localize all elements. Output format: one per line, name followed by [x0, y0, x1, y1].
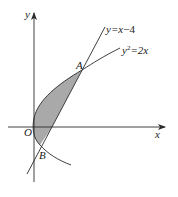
line-eq-suffix: −4	[123, 23, 135, 35]
shaded-region	[33, 70, 82, 145]
line-eq-prefix: y=x	[105, 23, 123, 35]
parabola-eq-rest: =2x	[130, 44, 148, 56]
line-equation-label: y=x−4	[105, 23, 135, 35]
parabola-equation-label: y2=2x	[121, 44, 148, 56]
x-axis-label: x	[154, 128, 160, 140]
area-diagram: y x O A B y=x−4 y2=2x	[0, 0, 178, 197]
point-b-label: B	[39, 149, 46, 161]
point-a-label: A	[75, 59, 83, 71]
y-axis-label: y	[24, 8, 30, 20]
origin-label: O	[24, 126, 32, 138]
